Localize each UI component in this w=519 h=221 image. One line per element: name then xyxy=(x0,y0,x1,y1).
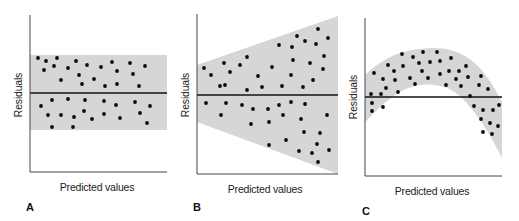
data-point xyxy=(102,112,106,116)
y-axis-label: Residuals xyxy=(179,73,191,117)
data-point xyxy=(281,113,285,117)
data-point xyxy=(295,34,299,38)
data-point xyxy=(66,97,70,101)
data-point xyxy=(90,117,94,121)
data-point xyxy=(72,115,76,119)
data-point xyxy=(44,59,48,63)
data-point xyxy=(459,84,463,88)
data-point xyxy=(400,52,404,56)
data-point xyxy=(267,120,271,124)
data-point xyxy=(311,78,315,82)
data-point xyxy=(457,69,461,73)
data-point xyxy=(36,56,40,60)
data-point xyxy=(289,100,293,104)
data-point xyxy=(479,74,483,78)
data-point xyxy=(270,65,274,69)
data-point xyxy=(370,109,374,113)
data-point xyxy=(74,59,78,63)
data-point xyxy=(297,149,301,153)
data-point xyxy=(326,36,330,40)
data-point xyxy=(55,56,59,60)
data-point xyxy=(224,101,228,105)
data-point xyxy=(77,73,81,77)
data-point xyxy=(204,101,208,105)
data-point xyxy=(408,76,412,80)
data-point xyxy=(318,131,322,135)
data-point xyxy=(496,124,500,128)
data-point xyxy=(240,103,244,107)
data-point xyxy=(466,75,470,79)
data-point xyxy=(249,122,253,126)
residual-band xyxy=(365,48,502,158)
data-point xyxy=(381,77,385,81)
data-point xyxy=(245,55,249,59)
data-point xyxy=(245,88,249,92)
data-point xyxy=(138,111,142,115)
data-point xyxy=(83,98,87,102)
data-point xyxy=(322,54,326,58)
data-point xyxy=(284,138,288,142)
data-point xyxy=(202,66,206,70)
data-point xyxy=(82,109,86,113)
data-point xyxy=(421,50,425,54)
data-point xyxy=(454,77,458,81)
data-point xyxy=(256,74,260,78)
data-point xyxy=(260,85,264,89)
data-point xyxy=(435,50,439,54)
data-point xyxy=(316,27,320,31)
data-point xyxy=(325,113,329,117)
data-point xyxy=(488,121,492,125)
data-point xyxy=(218,84,222,88)
data-point xyxy=(59,113,63,117)
data-point xyxy=(80,82,84,86)
data-point xyxy=(303,39,307,43)
data-point xyxy=(392,69,396,73)
data-point xyxy=(102,99,106,103)
data-point xyxy=(491,108,495,112)
data-point xyxy=(251,107,255,111)
residual-plots-figure: Residuals Predicted values A Residuals P… xyxy=(0,0,519,221)
data-point xyxy=(379,92,383,96)
data-point xyxy=(128,61,132,65)
data-point xyxy=(479,117,483,121)
data-point xyxy=(302,130,306,134)
data-point xyxy=(42,68,46,72)
data-point xyxy=(370,101,374,105)
data-point xyxy=(71,125,75,129)
data-point xyxy=(386,63,390,67)
data-point xyxy=(280,84,284,88)
data-point xyxy=(219,113,223,117)
data-point xyxy=(420,69,424,73)
panel-letter: C xyxy=(362,205,370,217)
data-point xyxy=(137,84,141,88)
data-point xyxy=(92,77,96,81)
data-point xyxy=(413,82,417,86)
y-axis-label: Residuals xyxy=(347,75,359,119)
panel-c: Residuals Predicted values C xyxy=(347,18,502,217)
data-point xyxy=(314,42,318,46)
data-point xyxy=(50,98,54,102)
data-point xyxy=(114,103,118,107)
data-point xyxy=(238,63,242,67)
data-point xyxy=(369,92,373,96)
data-point xyxy=(145,121,149,125)
data-point xyxy=(472,104,476,108)
data-point xyxy=(103,84,107,88)
data-point xyxy=(291,58,295,62)
data-point xyxy=(277,43,281,47)
data-point xyxy=(327,148,331,152)
data-point xyxy=(303,102,307,106)
data-point xyxy=(444,83,448,87)
data-point xyxy=(50,125,54,129)
data-point xyxy=(321,67,325,71)
panel-b: Residuals Predicted values B xyxy=(179,14,338,213)
data-point xyxy=(267,143,271,147)
data-point xyxy=(426,76,430,80)
data-point xyxy=(289,73,293,77)
data-point xyxy=(393,78,397,82)
data-point xyxy=(133,100,137,104)
data-point xyxy=(310,151,314,155)
data-point xyxy=(115,69,119,73)
data-point xyxy=(118,116,122,120)
data-point xyxy=(110,60,114,64)
